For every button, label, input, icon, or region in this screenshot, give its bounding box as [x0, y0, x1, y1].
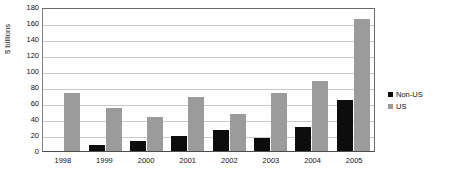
y-axis-tick-label: 0	[17, 148, 39, 156]
chart-legend: Non-USUS	[388, 88, 450, 112]
bar-us-2000	[147, 117, 163, 151]
y-axis-tick-label: 120	[17, 52, 39, 60]
bar-us-2002	[230, 114, 246, 151]
bar-non-us-1999	[89, 145, 105, 151]
y-axis-tick-label: 180	[17, 4, 39, 12]
y-axis-tick-label: 100	[17, 68, 39, 76]
bar-us-2001	[188, 97, 204, 151]
y-axis-tick-label: 60	[17, 100, 39, 108]
bar-non-us-2001	[171, 136, 187, 151]
x-axis-tick-label: 1998	[42, 155, 84, 169]
x-axis-tick-label: 2001	[167, 155, 209, 169]
x-axis-tick-label: 2002	[209, 155, 251, 169]
bar-non-us-2000	[130, 141, 146, 151]
y-axis-tick-label: 20	[17, 132, 39, 140]
bar-group	[43, 9, 84, 151]
bars-layer	[43, 9, 374, 151]
bar-group	[333, 9, 374, 151]
bar-group	[250, 9, 291, 151]
bar-group	[209, 9, 250, 151]
x-axis-tick-labels: 19981999200020012002200320042005	[42, 155, 375, 169]
x-axis-tick-label: 2004	[292, 155, 334, 169]
bar-non-us-2003	[254, 138, 270, 151]
x-axis-tick-label: 2003	[250, 155, 292, 169]
bar-us-2004	[312, 81, 328, 151]
legend-label: US	[396, 102, 406, 111]
bar-us-1999	[106, 108, 122, 151]
y-axis-tick-label: 160	[17, 20, 39, 28]
x-axis-tick-label: 2000	[125, 155, 167, 169]
black-square-icon	[388, 92, 393, 97]
bar-non-us-2004	[295, 127, 311, 151]
x-axis-tick-label: 2005	[333, 155, 375, 169]
bar-group	[167, 9, 208, 151]
bar-non-us-2002	[213, 130, 229, 151]
bar-us-1998	[64, 93, 80, 151]
y-axis-tick-label: 40	[17, 116, 39, 124]
y-axis-tick-label: 80	[17, 84, 39, 92]
plot-area	[42, 8, 375, 152]
bar-group	[291, 9, 332, 151]
bar-group	[84, 9, 125, 151]
legend-label: Non-US	[396, 90, 423, 99]
y-axis-tick-labels: 180160140120100806040200	[17, 8, 39, 152]
bar-us-2003	[271, 93, 287, 151]
y-axis-title: $ billions	[1, 4, 15, 74]
bar-non-us-2005	[337, 100, 353, 151]
gray-square-icon	[388, 104, 393, 109]
y-axis-tick-label: 140	[17, 36, 39, 44]
x-axis-tick-label: 1999	[84, 155, 126, 169]
bar-chart-figure: $ billions 180160140120100806040200 1998…	[0, 0, 454, 188]
bar-us-2005	[354, 19, 370, 151]
legend-entry-us: US	[388, 100, 450, 112]
bar-group	[126, 9, 167, 151]
legend-entry-non-us: Non-US	[388, 88, 450, 100]
